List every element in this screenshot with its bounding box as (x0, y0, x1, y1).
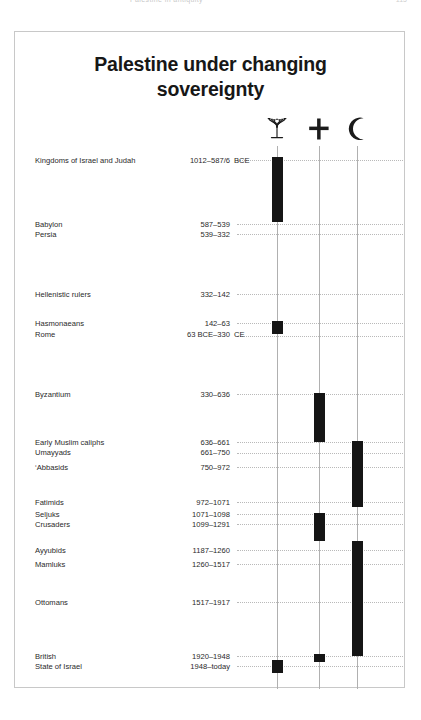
running-head: Palestine in antiquity 115 (0, 0, 421, 10)
entry-name: Ayyubids (35, 545, 66, 556)
entry-name: Umayyads (35, 447, 71, 458)
cross-icon (301, 114, 337, 144)
bar-christian-crusaders (314, 513, 325, 541)
bar-jewish-hasmonaeans (272, 321, 283, 334)
entry-name: Rome (35, 329, 55, 340)
figure-title-line-1: Palestine under changing (15, 52, 406, 77)
bar-jewish-state-of-israel (272, 660, 283, 673)
entry-dates: 142–63 (125, 318, 230, 329)
leader-line (237, 550, 403, 552)
entry-era: CE (234, 329, 245, 340)
leader-line (237, 234, 403, 236)
entry-name: Ottomans (35, 597, 68, 608)
leader-line (237, 467, 403, 469)
entry-dates: 750–972 (125, 462, 230, 473)
entry-dates: 63 BCE–330 (125, 329, 230, 340)
figure-title-line-2: sovereignty (15, 77, 406, 102)
entry-dates: 1099–1291 (125, 519, 230, 530)
bar-jewish-kingdoms (272, 157, 283, 222)
entry-dates: 661–750 (125, 447, 230, 458)
leader-line (237, 323, 403, 325)
entry-era: BCE (234, 155, 250, 166)
leader-line (237, 666, 403, 668)
entry-dates: 1517–1917 (125, 597, 230, 608)
leader-line (237, 502, 403, 504)
running-head-title: Palestine in antiquity (130, 0, 203, 3)
entry-dates: 1948–today (125, 661, 230, 672)
leader-line (237, 442, 403, 444)
menorah-icon (259, 114, 295, 144)
entry-dates: 332–142 (125, 289, 230, 300)
entry-dates: 1187–1260 (125, 545, 230, 556)
entry-name: Byzantium (35, 389, 70, 400)
entry-name: State of Israel (35, 661, 82, 672)
bar-christian-british (314, 654, 325, 662)
leader-line (237, 564, 403, 566)
figure-title: Palestine under changing sovereignty (15, 52, 406, 102)
entry-name: Mamluks (35, 559, 65, 570)
entry-dates: 539–332 (125, 229, 230, 240)
entry-name: ‘Abbasids (35, 462, 68, 473)
entry-name: Hellenistic rulers (35, 289, 91, 300)
bar-christian-byzantium (314, 393, 325, 442)
bar-muslim-caliphates (352, 441, 363, 507)
entry-name: Fatimids (35, 497, 64, 508)
entry-dates: 1012–587/6 (125, 155, 230, 166)
entry-dates: 972–1071 (125, 497, 230, 508)
leader-line (237, 336, 403, 338)
leader-line (237, 453, 403, 455)
bar-muslim-ayyubids-ottomans (352, 541, 363, 656)
leader-line (237, 602, 403, 604)
entry-name: Hasmonaeans (35, 318, 84, 329)
entry-dates: 330–636 (125, 389, 230, 400)
leader-line (237, 224, 403, 226)
entry-name: Crusaders (35, 519, 70, 530)
entry-dates: 1260–1517 (125, 559, 230, 570)
crescent-icon (339, 114, 375, 144)
page-folio-number: 115 (396, 0, 407, 3)
entry-name: Kingdoms of Israel and Judah (35, 155, 135, 166)
figure-frame: Palestine under changing sovereignty (14, 31, 405, 688)
axis-line-jewish (277, 146, 278, 689)
leader-line (237, 160, 403, 162)
entry-name: Persia (35, 229, 57, 240)
leader-line (237, 294, 403, 296)
